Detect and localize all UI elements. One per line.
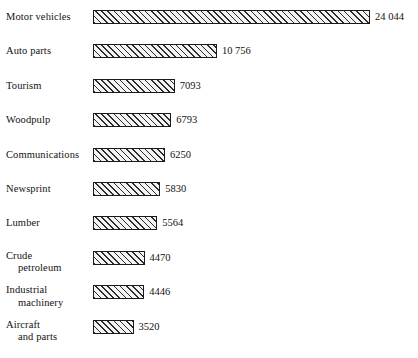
category-label-line1: Woodpulp: [6, 114, 88, 127]
bar-value-label: 4446: [149, 285, 170, 299]
bar-track: [93, 113, 171, 127]
category-label: Auto parts: [6, 45, 88, 58]
bar[interactable]: [93, 113, 171, 127]
category-label-line1: Lumber: [6, 217, 88, 230]
bar-track: [93, 182, 160, 196]
bar-row: Newsprint5830: [0, 182, 418, 214]
bar-track: [93, 44, 217, 58]
category-label-line1: Crude: [6, 250, 88, 263]
bar-track: [93, 10, 370, 24]
bar-value-label: 5830: [165, 182, 186, 196]
category-label-line1: Aircraft: [6, 319, 88, 332]
bar-value-label: 6793: [176, 113, 197, 127]
bar[interactable]: [93, 79, 175, 93]
bar[interactable]: [93, 10, 370, 24]
category-label: Crudepetroleum: [6, 250, 88, 275]
bar-row: Woodpulp6793: [0, 113, 418, 145]
category-label: Industrialmachinery: [6, 284, 88, 309]
bar-track: [93, 79, 175, 93]
bar-value-label: 10 756: [222, 44, 251, 58]
bar-row: Motor vehicles24 044: [0, 10, 418, 42]
bar[interactable]: [93, 148, 165, 162]
bar-track: [93, 148, 165, 162]
bar[interactable]: [93, 251, 145, 265]
category-label: Communications: [6, 149, 88, 162]
bar[interactable]: [93, 182, 160, 196]
bar-value-label: 3520: [139, 320, 160, 334]
bar-row: Tourism7093: [0, 79, 418, 111]
category-label: Aircraftand parts: [6, 319, 88, 344]
bar-track: [93, 251, 145, 265]
category-label-line1: Newsprint: [6, 183, 88, 196]
bar-value-label: 4470: [150, 251, 171, 265]
bar-row: Auto parts10 756: [0, 44, 418, 76]
bar[interactable]: [93, 216, 157, 230]
bar-track: [93, 216, 157, 230]
bar-chart: Motor vehicles24 044Auto parts10 756Tour…: [0, 0, 418, 358]
category-label: Newsprint: [6, 183, 88, 196]
category-label-line1: Auto parts: [6, 45, 88, 58]
bar-row: Aircraftand parts3520: [0, 320, 418, 352]
bar-value-label: 5564: [162, 216, 183, 230]
category-label-line1: Motor vehicles: [6, 11, 88, 24]
bar-value-label: 24 044: [375, 10, 404, 24]
bar[interactable]: [93, 285, 144, 299]
category-label-line1: Communications: [6, 149, 88, 162]
category-label-line1: Industrial: [6, 284, 88, 297]
category-label: Woodpulp: [6, 114, 88, 127]
bar-track: [93, 320, 134, 334]
category-label-line2: petroleum: [6, 262, 88, 275]
bar-row: Crudepetroleum4470: [0, 251, 418, 283]
bar-row: Lumber5564: [0, 216, 418, 248]
category-label: Tourism: [6, 80, 88, 93]
category-label: Motor vehicles: [6, 11, 88, 24]
category-label-line2: and parts: [6, 331, 88, 344]
bar-row: Industrialmachinery4446: [0, 285, 418, 317]
category-label-line1: Tourism: [6, 80, 88, 93]
bar-value-label: 7093: [180, 79, 201, 93]
bar-value-label: 6250: [170, 148, 191, 162]
bar[interactable]: [93, 320, 134, 334]
bar[interactable]: [93, 44, 217, 58]
category-label: Lumber: [6, 217, 88, 230]
bar-row: Communications6250: [0, 148, 418, 180]
category-label-line2: machinery: [6, 297, 88, 310]
bar-track: [93, 285, 144, 299]
